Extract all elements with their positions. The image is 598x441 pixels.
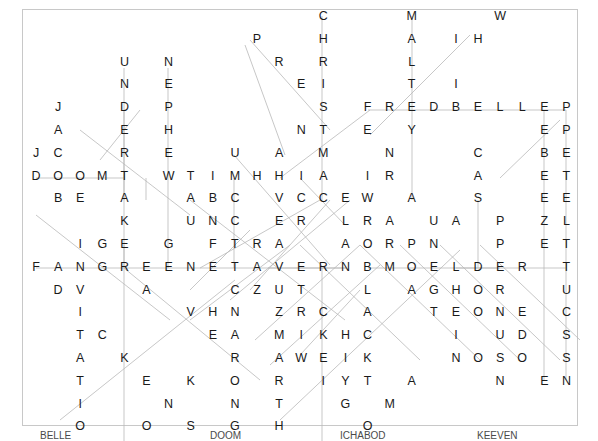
grid-letter[interactable]: M <box>226 167 244 185</box>
grid-letter[interactable]: D <box>513 326 531 344</box>
grid-letter[interactable]: P <box>248 30 266 48</box>
grid-letter[interactable]: V <box>270 258 288 276</box>
grid-letter[interactable]: U <box>270 281 288 299</box>
grid-letter[interactable]: E <box>292 258 310 276</box>
grid-letter[interactable]: T <box>425 303 443 321</box>
letter-grid[interactable]: CMWPHAIHUNRRLNEEITIJDPSFREDBELLEPAEHNTEY… <box>0 0 598 441</box>
grid-letter[interactable]: S <box>314 98 332 116</box>
grid-letter[interactable]: W <box>160 167 178 185</box>
grid-letter[interactable]: B <box>49 189 67 207</box>
grid-letter[interactable]: A <box>248 258 266 276</box>
grid-letter[interactable]: C <box>49 144 67 162</box>
grid-letter[interactable]: H <box>447 281 465 299</box>
grid-letter[interactable]: E <box>535 98 553 116</box>
grid-letter[interactable]: A <box>403 281 421 299</box>
grid-letter[interactable]: A <box>182 189 200 207</box>
grid-letter[interactable]: O <box>513 349 531 367</box>
grid-letter[interactable]: J <box>27 144 45 162</box>
grid-letter[interactable]: M <box>403 7 421 25</box>
grid-letter[interactable]: D <box>425 98 443 116</box>
grid-letter[interactable]: N <box>491 372 509 390</box>
grid-letter[interactable]: E <box>115 121 133 139</box>
grid-letter[interactable]: I <box>447 30 465 48</box>
grid-letter[interactable]: N <box>557 372 575 390</box>
grid-letter[interactable]: A <box>381 212 399 230</box>
grid-letter[interactable]: I <box>314 75 332 93</box>
grid-letter[interactable]: N <box>71 258 89 276</box>
grid-letter[interactable]: A <box>403 372 421 390</box>
grid-letter[interactable]: T <box>557 258 575 276</box>
grid-letter[interactable]: A <box>138 281 156 299</box>
grid-letter[interactable]: S <box>557 349 575 367</box>
grid-letter[interactable]: E <box>292 75 310 93</box>
grid-letter[interactable]: H <box>270 167 288 185</box>
grid-letter[interactable]: E <box>535 235 553 253</box>
grid-letter[interactable]: I <box>71 235 89 253</box>
grid-letter[interactable]: A <box>226 326 244 344</box>
grid-letter[interactable]: A <box>270 144 288 162</box>
grid-letter[interactable]: E <box>557 189 575 207</box>
grid-letter[interactable]: L <box>447 258 465 276</box>
grid-letter[interactable]: Z <box>535 212 553 230</box>
grid-letter[interactable]: P <box>557 121 575 139</box>
grid-letter[interactable]: G <box>425 281 443 299</box>
grid-letter[interactable]: I <box>71 303 89 321</box>
grid-letter[interactable]: F <box>359 98 377 116</box>
grid-letter[interactable]: C <box>226 281 244 299</box>
grid-letter[interactable]: U <box>557 281 575 299</box>
grid-letter[interactable]: E <box>491 258 509 276</box>
grid-letter[interactable]: U <box>425 212 443 230</box>
grid-letter[interactable]: A <box>270 349 288 367</box>
grid-letter[interactable]: T <box>292 281 310 299</box>
grid-letter[interactable]: T <box>314 121 332 139</box>
grid-letter[interactable]: N <box>425 235 443 253</box>
grid-letter[interactable]: T <box>403 75 421 93</box>
grid-letter[interactable]: I <box>292 167 310 185</box>
grid-letter[interactable]: A <box>49 121 67 139</box>
grid-letter[interactable]: C <box>93 326 111 344</box>
grid-letter[interactable]: H <box>469 30 487 48</box>
grid-letter[interactable]: I <box>71 395 89 413</box>
grid-letter[interactable]: E <box>115 235 133 253</box>
grid-letter[interactable]: M <box>381 395 399 413</box>
grid-letter[interactable]: T <box>270 395 288 413</box>
grid-letter[interactable]: E <box>535 189 553 207</box>
grid-letter[interactable]: L <box>403 53 421 71</box>
grid-letter[interactable]: A <box>49 258 67 276</box>
grid-letter[interactable]: E <box>204 258 222 276</box>
grid-letter[interactable]: Z <box>248 281 266 299</box>
grid-letter[interactable]: B <box>447 98 465 116</box>
grid-letter[interactable]: E <box>204 326 222 344</box>
grid-letter[interactable]: J <box>49 98 67 116</box>
grid-letter[interactable]: R <box>381 235 399 253</box>
grid-letter[interactable]: E <box>336 189 354 207</box>
grid-letter[interactable]: U <box>491 326 509 344</box>
grid-letter[interactable]: N <box>204 212 222 230</box>
grid-letter[interactable]: T <box>557 167 575 185</box>
grid-letter[interactable]: A <box>314 167 332 185</box>
grid-letter[interactable]: L <box>359 281 377 299</box>
grid-letter[interactable]: N <box>336 258 354 276</box>
grid-letter[interactable]: N <box>491 303 509 321</box>
grid-letter[interactable]: R <box>381 167 399 185</box>
grid-letter[interactable]: E <box>557 144 575 162</box>
grid-letter[interactable]: R <box>270 53 288 71</box>
grid-letter[interactable]: A <box>336 235 354 253</box>
grid-letter[interactable]: L <box>557 212 575 230</box>
grid-letter[interactable]: E <box>160 144 178 162</box>
grid-letter[interactable]: K <box>359 349 377 367</box>
grid-letter[interactable]: H <box>160 121 178 139</box>
grid-letter[interactable]: A <box>403 30 421 48</box>
grid-letter[interactable]: E <box>403 98 421 116</box>
grid-letter[interactable]: G <box>160 235 178 253</box>
grid-letter[interactable]: M <box>270 326 288 344</box>
grid-letter[interactable]: K <box>115 212 133 230</box>
grid-letter[interactable]: P <box>491 212 509 230</box>
grid-letter[interactable]: A <box>359 303 377 321</box>
grid-letter[interactable]: R <box>248 235 266 253</box>
grid-letter[interactable]: R <box>292 303 310 321</box>
grid-letter[interactable]: N <box>226 303 244 321</box>
grid-letter[interactable]: Y <box>336 372 354 390</box>
grid-letter[interactable]: O <box>469 281 487 299</box>
grid-letter[interactable]: W <box>359 189 377 207</box>
